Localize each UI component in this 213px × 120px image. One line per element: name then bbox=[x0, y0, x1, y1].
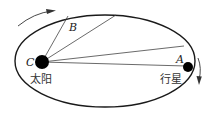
point-b-label: B bbox=[68, 21, 77, 34]
planet-point-label: A bbox=[175, 53, 184, 66]
sun-name-label: 太阳 bbox=[30, 73, 52, 86]
orbit-direction-arrow-right-icon bbox=[197, 58, 202, 85]
orbit-svg: C 太阳 B A 行星 bbox=[0, 0, 213, 120]
planet-name-label: 行星 bbox=[160, 73, 182, 86]
sun-point-label: C bbox=[26, 56, 35, 69]
radius-lines bbox=[42, 15, 186, 66]
radius-line bbox=[42, 62, 186, 66]
planet-icon bbox=[183, 62, 193, 72]
kepler-orbit-diagram: C 太阳 B A 行星 bbox=[0, 0, 213, 120]
sun-icon bbox=[35, 55, 49, 69]
orbit-direction-arrow-top-icon bbox=[18, 9, 56, 26]
